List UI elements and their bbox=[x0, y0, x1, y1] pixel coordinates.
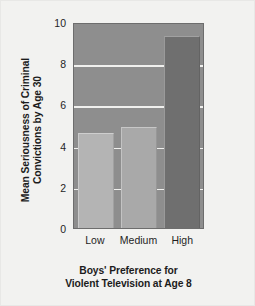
y-axis-title: Mean Seriousness of Criminal Convictions… bbox=[15, 15, 49, 245]
x-axis-title-line-1: Boys' Preference for bbox=[1, 265, 255, 278]
x-tick-label-medium: Medium bbox=[117, 234, 161, 246]
x-axis-title-line-2: Violent Television at Age 8 bbox=[1, 278, 255, 291]
bar-medium bbox=[121, 127, 157, 228]
y-tick-label-6: 6 bbox=[42, 99, 66, 111]
y-tick-label-10: 10 bbox=[42, 17, 66, 29]
plot-area bbox=[73, 23, 204, 229]
bar-group bbox=[74, 24, 203, 228]
y-tick-label-2: 2 bbox=[42, 182, 66, 194]
y-axis-title-line-2: Convictions by Age 30 bbox=[32, 76, 44, 184]
x-axis-tick-labels: Low Medium High bbox=[73, 234, 204, 250]
x-tick-label-low: Low bbox=[73, 234, 117, 246]
x-tick-label-high: High bbox=[160, 234, 204, 246]
y-tick-label-4: 4 bbox=[42, 141, 66, 153]
x-axis-title: Boys' Preference for Violent Television … bbox=[1, 265, 255, 291]
y-axis-title-line-1: Mean Seriousness of Criminal bbox=[20, 58, 32, 202]
bar-low bbox=[78, 133, 114, 228]
y-tick-label-0: 0 bbox=[42, 223, 66, 235]
bar-high bbox=[164, 36, 200, 228]
y-tick-label-8: 8 bbox=[42, 58, 66, 70]
chart-figure: Mean Seriousness of Criminal Convictions… bbox=[0, 0, 255, 306]
